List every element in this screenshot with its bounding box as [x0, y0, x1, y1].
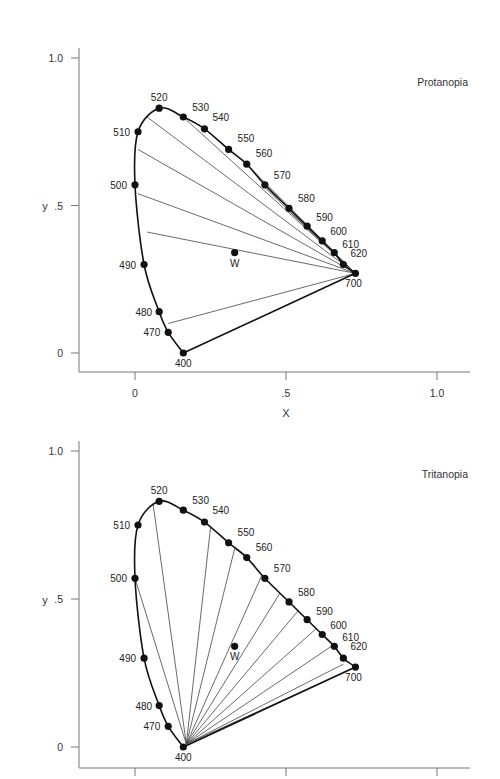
y-axis-label: y	[42, 594, 48, 606]
wavelength-label: 550	[238, 133, 255, 144]
wavelength-point	[352, 270, 359, 277]
wavelength-label: 600	[330, 226, 347, 237]
x-tick-label: 1.0	[430, 387, 445, 399]
wavelength-point	[180, 349, 187, 356]
wavelength-label: 590	[316, 212, 333, 223]
wavelength-label: 520	[151, 485, 168, 496]
confusion-line	[138, 194, 355, 274]
wavelength-label: 570	[274, 563, 291, 574]
wavelength-point	[285, 205, 292, 212]
chart-title: Protanopia	[417, 76, 468, 88]
white-point	[231, 249, 238, 256]
confusion-line	[186, 629, 316, 744]
spectrum-locus	[134, 108, 355, 353]
white-point	[231, 643, 238, 650]
wavelength-label: 540	[212, 505, 229, 516]
wavelength-label: 490	[119, 260, 136, 271]
wavelength-point	[243, 554, 250, 561]
white-point-label: W	[230, 651, 240, 662]
confusion-line	[241, 158, 356, 273]
white-point-label: W	[230, 258, 240, 269]
wavelength-point	[134, 521, 141, 528]
wavelength-point	[304, 223, 311, 230]
wavelength-label: 520	[151, 92, 168, 103]
wavelength-point	[180, 743, 187, 750]
wavelength-point	[304, 616, 311, 623]
wavelength-point	[319, 631, 326, 638]
confusion-line	[186, 120, 355, 273]
wavelength-label: 580	[298, 193, 315, 204]
purple-line	[183, 273, 355, 353]
wavelength-point	[131, 575, 138, 582]
y-tick-label: .5	[54, 593, 63, 605]
wavelength-label: 540	[212, 112, 229, 123]
confusion-line	[186, 664, 343, 744]
wavelength-point	[140, 655, 147, 662]
wavelength-point	[201, 518, 208, 525]
wavelength-label: 470	[144, 327, 161, 338]
y-tick-label: 0	[57, 347, 63, 359]
wavelength-label: 510	[113, 127, 130, 138]
wavelength-point	[180, 113, 187, 120]
wavelength-point	[180, 507, 187, 514]
wavelength-label: 580	[298, 587, 315, 598]
wavelength-point	[131, 181, 138, 188]
wavelength-label: 700	[345, 278, 362, 289]
wavelength-point	[156, 105, 163, 112]
wavelength-point	[156, 702, 163, 709]
x-tick-label: 0	[132, 387, 138, 399]
wavelength-point	[225, 539, 232, 546]
wavelength-label: 590	[316, 606, 333, 617]
wavelength-label: 620	[350, 641, 367, 652]
wavelength-label: 560	[256, 542, 273, 553]
wavelength-label: 400	[175, 752, 192, 763]
wavelength-label: 700	[345, 672, 362, 683]
wavelength-point	[243, 161, 250, 168]
wavelength-label: 470	[144, 721, 161, 732]
wavelength-point	[340, 655, 347, 662]
wavelength-point	[165, 723, 172, 730]
wavelength-label: 510	[113, 520, 130, 531]
y-tick-label: 1.0	[48, 52, 63, 64]
tritanopia-chart: 0.51.0yTritanopia40047048049050051052053…	[42, 441, 470, 776]
wavelength-label: 530	[192, 102, 209, 113]
wavelength-label: 530	[192, 495, 209, 506]
wavelength-label: 500	[110, 573, 127, 584]
y-axis-label: y	[42, 200, 48, 212]
wavelength-point	[261, 575, 268, 582]
spectrum-locus	[134, 501, 355, 747]
wavelength-point	[319, 237, 326, 244]
wavelength-label: 550	[238, 527, 255, 538]
wavelength-point	[140, 261, 147, 268]
wavelength-point	[331, 643, 338, 650]
wavelength-point	[331, 249, 338, 256]
wavelength-label: 400	[175, 358, 192, 369]
x-axis-label: X	[282, 407, 290, 419]
y-tick-label: 0	[57, 741, 63, 753]
wavelength-label: 480	[135, 701, 152, 712]
wavelength-label: 620	[350, 248, 367, 259]
chromaticity-charts: 0.51.00.51.0yXProtanopia4004704804905005…	[0, 0, 500, 779]
x-tick-label: .5	[282, 387, 291, 399]
protanopia-chart: 0.51.00.51.0yXProtanopia4004704804905005…	[42, 48, 470, 419]
y-tick-label: 1.0	[48, 445, 63, 457]
wavelength-point	[156, 498, 163, 505]
wavelength-point	[340, 261, 347, 268]
y-tick-label: .5	[54, 200, 63, 212]
wavelength-point	[352, 663, 359, 670]
wavelength-label: 480	[135, 307, 152, 318]
wavelength-point	[261, 181, 268, 188]
wavelength-label: 560	[256, 148, 273, 159]
wavelength-point	[225, 146, 232, 153]
wavelength-point	[134, 128, 141, 135]
wavelength-point	[165, 329, 172, 336]
wavelength-point	[201, 125, 208, 132]
chart-title: Tritanopia	[422, 468, 468, 480]
wavelength-label: 600	[330, 620, 347, 631]
wavelength-label: 500	[110, 180, 127, 191]
wavelength-label: 490	[119, 653, 136, 664]
wavelength-point	[156, 308, 163, 315]
wavelength-point	[285, 598, 292, 605]
wavelength-label: 570	[274, 170, 291, 181]
